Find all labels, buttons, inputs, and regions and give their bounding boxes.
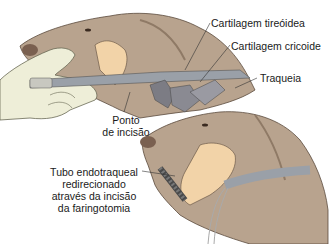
label-incision-line2: de incisão bbox=[98, 126, 154, 138]
label-tube-line2: redirecionado bbox=[44, 178, 144, 190]
label-incision-point: Ponto de incisão bbox=[98, 114, 154, 138]
label-trachea: Traqueia bbox=[260, 72, 301, 84]
label-tube-line3: através da incisão bbox=[44, 190, 144, 202]
label-tube-line1: Tubo endotraqueal bbox=[44, 166, 144, 178]
label-thyroid-cartilage: Cartilagem tireóidea bbox=[211, 17, 305, 29]
label-tube-line4: da faringotomia bbox=[44, 202, 144, 214]
label-incision-line1: Ponto bbox=[98, 114, 154, 126]
label-cricoid-cartilage: Cartilagem cricoide bbox=[231, 40, 321, 52]
label-redirected-tube: Tubo endotraqueal redirecionado através … bbox=[44, 166, 144, 214]
